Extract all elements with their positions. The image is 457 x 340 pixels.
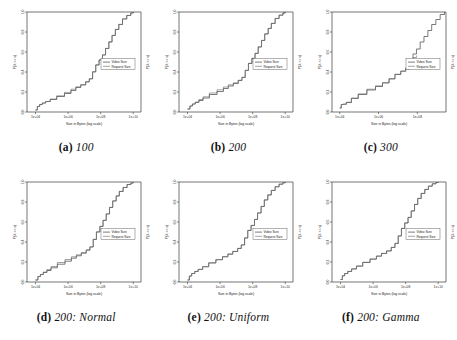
subplot-cell-a: 0.00.20.40.60.81.01e+041e+061e+081e+10Si… [0, 0, 152, 170]
svg-text:1e+10: 1e+10 [281, 115, 290, 119]
svg-text:1.0: 1.0 [326, 10, 330, 15]
svg-text:0.4: 0.4 [22, 70, 26, 75]
svg-text:P(X <= x): P(X <= x) [165, 225, 169, 239]
svg-text:1.0: 1.0 [174, 10, 178, 15]
svg-text:1.0: 1.0 [22, 180, 26, 185]
svg-text:1e+08: 1e+08 [249, 285, 258, 289]
svg-text:P(X <= x): P(X <= x) [318, 225, 322, 239]
svg-text:Size in Bytes (log scale): Size in Bytes (log scale) [371, 292, 407, 296]
svg-text:Request Size: Request Size [264, 235, 283, 239]
subplot-cell-b: 0.00.20.40.60.81.01e+041e+061e+081e+10Si… [152, 0, 304, 170]
svg-text:1e+06: 1e+06 [64, 285, 73, 289]
svg-text:1.0: 1.0 [174, 180, 178, 185]
plot-f: 0.00.20.40.60.81.01e+041e+061e+081e+10Si… [306, 170, 456, 313]
svg-text:P(X <= x): P(X <= x) [146, 225, 150, 239]
svg-text:1e+04: 1e+04 [183, 115, 192, 119]
svg-text:0.2: 0.2 [174, 260, 178, 265]
svg-text:1e+04: 1e+04 [336, 285, 345, 289]
svg-text:Request Size: Request Size [416, 235, 435, 239]
svg-text:0.0: 0.0 [174, 280, 178, 285]
svg-text:0.4: 0.4 [326, 240, 330, 245]
svg-text:1.0: 1.0 [326, 180, 330, 185]
svg-text:0.8: 0.8 [22, 30, 26, 35]
plot-c-svg: 0.00.20.40.60.81.01e+041e+061e+08Size in… [306, 0, 456, 143]
svg-text:0.8: 0.8 [326, 200, 330, 205]
plot-c: 0.00.20.40.60.81.01e+041e+061e+08Size in… [306, 0, 456, 143]
svg-text:1.0: 1.0 [22, 10, 26, 15]
svg-text:0.2: 0.2 [22, 90, 26, 95]
svg-text:Size in Bytes (log scale): Size in Bytes (log scale) [371, 122, 407, 126]
svg-text:Size in Bytes (log scale): Size in Bytes (log scale) [218, 122, 254, 126]
svg-text:Request Size: Request Size [264, 65, 283, 69]
svg-text:Request Size: Request Size [416, 65, 435, 69]
svg-text:1e+04: 1e+04 [335, 115, 344, 119]
svg-text:1e+10: 1e+10 [281, 285, 290, 289]
svg-text:0.6: 0.6 [326, 50, 330, 55]
plot-d-svg: 0.00.20.40.60.81.01e+041e+061e+081e+10Si… [1, 170, 151, 313]
svg-text:Size in Bytes (log scale): Size in Bytes (log scale) [218, 292, 254, 296]
svg-text:P(X <= x): P(X <= x) [13, 225, 17, 239]
svg-text:0.4: 0.4 [22, 240, 26, 245]
svg-text:0.2: 0.2 [22, 260, 26, 265]
svg-text:1e+10: 1e+10 [433, 285, 442, 289]
svg-text:1e+06: 1e+06 [216, 285, 225, 289]
svg-text:0.8: 0.8 [326, 30, 330, 35]
svg-text:1e+04: 1e+04 [183, 285, 192, 289]
svg-text:0.0: 0.0 [326, 110, 330, 115]
subplot-cell-e: 0.00.20.40.60.81.01e+041e+061e+081e+10Si… [152, 170, 304, 340]
svg-text:0.0: 0.0 [22, 110, 26, 115]
svg-text:0.2: 0.2 [326, 260, 330, 265]
svg-text:1e+10: 1e+10 [129, 115, 138, 119]
svg-text:P(X <= x): P(X <= x) [146, 55, 150, 69]
svg-text:1e+06: 1e+06 [64, 115, 73, 119]
svg-text:1e+08: 1e+08 [96, 115, 105, 119]
svg-text:0.0: 0.0 [326, 280, 330, 285]
svg-text:0.6: 0.6 [22, 220, 26, 225]
svg-text:1e+06: 1e+06 [368, 285, 377, 289]
svg-text:P(X <= x): P(X <= x) [13, 55, 17, 69]
plot-e: 0.00.20.40.60.81.01e+041e+061e+081e+10Si… [153, 170, 303, 313]
plot-d: 0.00.20.40.60.81.01e+041e+061e+081e+10Si… [1, 170, 151, 313]
svg-text:0.0: 0.0 [174, 110, 178, 115]
svg-text:1e+04: 1e+04 [31, 285, 40, 289]
svg-text:0.4: 0.4 [174, 240, 178, 245]
svg-text:0.4: 0.4 [174, 70, 178, 75]
subplot-cell-f: 0.00.20.40.60.81.01e+041e+061e+081e+10Si… [305, 170, 457, 340]
plot-a-svg: 0.00.20.40.60.81.01e+041e+061e+081e+10Si… [1, 0, 151, 143]
subplot-cell-c: 0.00.20.40.60.81.01e+041e+061e+08Size in… [305, 0, 457, 170]
svg-text:0.8: 0.8 [174, 30, 178, 35]
svg-text:1e+06: 1e+06 [216, 115, 225, 119]
svg-text:P(X <= x): P(X <= x) [451, 55, 455, 69]
svg-text:0.6: 0.6 [326, 220, 330, 225]
svg-text:0.6: 0.6 [174, 220, 178, 225]
plot-b: 0.00.20.40.60.81.01e+041e+061e+081e+10Si… [153, 0, 303, 143]
figure-panel-grid: 0.00.20.40.60.81.01e+041e+061e+081e+10Si… [0, 0, 457, 340]
svg-text:Request Size: Request Size [112, 65, 131, 69]
svg-text:1e+08: 1e+08 [96, 285, 105, 289]
svg-text:P(X <= x): P(X <= x) [451, 225, 455, 239]
svg-text:Request Size: Request Size [112, 235, 131, 239]
plot-e-svg: 0.00.20.40.60.81.01e+041e+061e+081e+10Si… [153, 170, 303, 313]
svg-text:1e+04: 1e+04 [31, 115, 40, 119]
svg-text:Size in Bytes (log scale): Size in Bytes (log scale) [66, 292, 102, 296]
subplot-grid: 0.00.20.40.60.81.01e+041e+061e+081e+10Si… [0, 0, 457, 340]
plot-f-svg: 0.00.20.40.60.81.01e+041e+061e+081e+10Si… [306, 170, 456, 313]
svg-text:0.8: 0.8 [174, 200, 178, 205]
svg-text:1e+08: 1e+08 [413, 115, 422, 119]
svg-text:P(X <= x): P(X <= x) [318, 55, 322, 69]
svg-text:P(X <= x): P(X <= x) [298, 55, 302, 69]
svg-text:0.2: 0.2 [326, 90, 330, 95]
svg-text:0.2: 0.2 [174, 90, 178, 95]
svg-text:P(X <= x): P(X <= x) [165, 55, 169, 69]
svg-text:Size in Bytes (log scale): Size in Bytes (log scale) [66, 122, 102, 126]
plot-a: 0.00.20.40.60.81.01e+041e+061e+081e+10Si… [1, 0, 151, 143]
svg-text:P(X <= x): P(X <= x) [298, 225, 302, 239]
svg-text:0.8: 0.8 [22, 200, 26, 205]
svg-text:1e+08: 1e+08 [401, 285, 410, 289]
svg-text:0.6: 0.6 [174, 50, 178, 55]
svg-text:1e+06: 1e+06 [374, 115, 383, 119]
svg-text:0.4: 0.4 [326, 70, 330, 75]
svg-text:0.0: 0.0 [22, 280, 26, 285]
svg-text:1e+08: 1e+08 [249, 115, 258, 119]
svg-text:0.6: 0.6 [22, 50, 26, 55]
